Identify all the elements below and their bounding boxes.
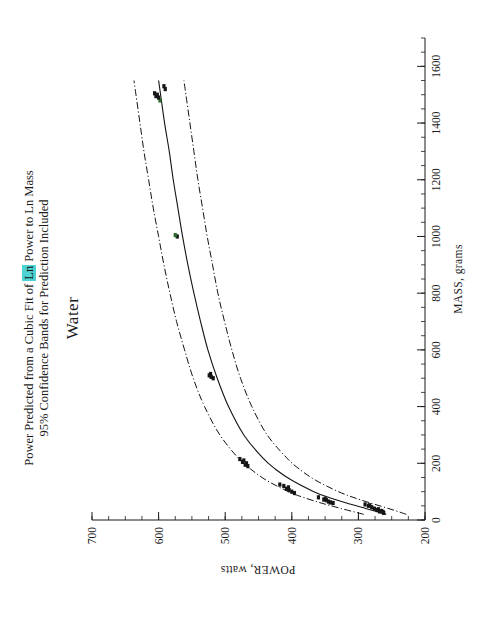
data-point: [242, 458, 245, 462]
data-point: [377, 507, 380, 511]
chart-svg: 02004006008001000120014001600 2003004005…: [0, 0, 477, 638]
x-tick-label: 1600: [430, 55, 442, 78]
data-point: [174, 233, 177, 237]
x-tick-label: 200: [430, 454, 442, 472]
x-tick-label: 400: [430, 398, 442, 416]
data-point: [209, 372, 212, 376]
y-axis-label: POWER, watts: [220, 563, 295, 576]
x-axis-label: MASS, grams: [452, 244, 465, 314]
y-tick-label: 600: [153, 527, 165, 545]
x-axis-ticks: 02004006008001000120014001600: [417, 38, 442, 523]
x-tick-label: 1200: [430, 168, 442, 191]
data-point: [238, 457, 241, 461]
data-point: [368, 503, 371, 507]
data-point: [282, 484, 285, 488]
plot-area: 02004006008001000120014001600 2003004005…: [0, 0, 477, 638]
y-tick-label: 500: [219, 527, 231, 545]
data-point: [363, 502, 366, 506]
x-tick-label: 1400: [430, 111, 442, 134]
x-tick-label: 800: [430, 284, 442, 302]
data-point: [162, 84, 165, 88]
x-tick-label: 600: [430, 341, 442, 359]
data-point: [317, 495, 320, 499]
y-tick-label: 300: [352, 527, 364, 545]
y-tick-label: 400: [286, 527, 298, 545]
x-tick-label: 1000: [430, 225, 442, 248]
y-tick-label: 700: [86, 527, 98, 545]
data-point: [287, 485, 290, 489]
data-point: [324, 497, 327, 501]
data-point: [380, 509, 383, 513]
y-tick-label: 200: [419, 527, 431, 545]
y-axis-ticks: 200300400500600700: [86, 512, 431, 544]
data-points: [153, 84, 385, 515]
x-tick-label: 0: [430, 517, 442, 523]
lower-confidence-band: [184, 81, 406, 515]
figure-root: Power Predicted from a Cubic Fit of Ln P…: [0, 0, 477, 638]
data-point: [153, 91, 156, 95]
data-point: [278, 482, 281, 486]
